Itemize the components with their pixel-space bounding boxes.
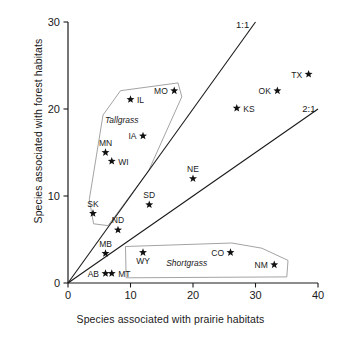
data-point-label-nd: ND — [112, 215, 124, 225]
data-point-sk — [89, 209, 97, 217]
data-point-sd — [145, 201, 153, 209]
data-point-mn — [102, 148, 110, 156]
cluster-annotation-shortgrass: Shortgrass — [166, 258, 208, 268]
y-axis-tick-label: 20 — [48, 103, 60, 115]
y-axis-tick-label: 10 — [48, 190, 60, 202]
group-outline-tallgrass — [89, 83, 182, 226]
data-point-label-mn: MN — [99, 138, 112, 148]
data-point-tx — [305, 70, 313, 78]
data-point-label-co: CO — [211, 248, 224, 258]
data-point-label-tx: TX — [291, 70, 302, 80]
data-point-wi — [108, 157, 116, 165]
data-point-nd — [114, 226, 122, 234]
cluster-annotation-tallgrass: Tallgrass — [105, 115, 139, 125]
data-point-label-wi: WI — [118, 157, 128, 167]
y-axis-title: Species associated with forest habitats — [32, 11, 44, 251]
data-point-ne — [189, 174, 197, 182]
plot-canvas: 1:12:10102030400102030TallgrassShortgras… — [0, 0, 341, 340]
data-point-mo — [170, 87, 178, 95]
data-point-ab — [102, 269, 110, 277]
x-axis-tick-label: 20 — [187, 289, 199, 301]
x-axis-tick-label: 0 — [65, 289, 71, 301]
data-point-label-il: IL — [137, 95, 144, 105]
data-point-label-wy: WY — [136, 256, 150, 266]
data-point-label-ne: NE — [187, 164, 199, 174]
reference-line-1-1 — [68, 22, 256, 283]
reference-line-label-2-1: 2:1 — [302, 103, 315, 114]
data-point-wy — [139, 248, 147, 256]
data-point-label-sk: SK — [87, 199, 99, 209]
scatter-plot-figure: 1:12:10102030400102030TallgrassShortgras… — [0, 0, 341, 340]
data-point-mb — [102, 249, 110, 257]
reference-line-label-1-1: 1:1 — [236, 19, 249, 30]
data-point-label-sd: SD — [143, 190, 155, 200]
data-point-label-ks: KS — [243, 104, 255, 114]
data-point-mt — [108, 269, 116, 277]
data-point-label-ok: OK — [259, 86, 272, 96]
data-point-label-mt: MT — [118, 269, 130, 279]
data-point-ks — [233, 104, 241, 112]
data-point-co — [227, 248, 235, 256]
data-point-label-nm: NM — [255, 260, 268, 270]
data-point-label-mo: MO — [154, 86, 168, 96]
data-point-label-ab: AB — [88, 269, 100, 279]
x-axis-title: Species associated with prairie habitats — [0, 313, 341, 325]
data-point-ia — [139, 132, 147, 140]
y-axis-tick-label: 30 — [48, 16, 60, 28]
data-point-il — [127, 95, 135, 103]
x-axis-tick-label: 10 — [124, 289, 136, 301]
data-point-ok — [273, 87, 281, 95]
data-point-label-mb: MB — [99, 239, 112, 249]
y-axis-tick-label: 0 — [54, 277, 60, 289]
data-point-nm — [270, 261, 278, 269]
data-point-label-ia: IA — [128, 131, 136, 141]
x-axis-tick-label: 40 — [312, 289, 324, 301]
x-axis-tick-label: 30 — [249, 289, 261, 301]
